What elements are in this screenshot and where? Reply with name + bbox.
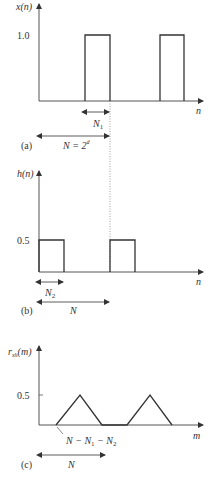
n-equals-2d-label: N = 2d	[62, 139, 90, 151]
annotation-leader	[57, 427, 63, 434]
pulse-2	[160, 35, 184, 101]
panel-label: (a)	[21, 140, 32, 152]
y-tick-label: 1.0	[17, 30, 30, 41]
x-axis-label: n	[196, 105, 201, 116]
n1-label: N1	[92, 118, 104, 131]
panel-label: (c)	[21, 459, 32, 471]
x-axis-label: m	[193, 430, 200, 441]
pulse-2	[110, 240, 135, 272]
n2-label: N2	[44, 287, 56, 300]
panel-c: rxh(m) m 0.5 N − N1 − N2 (c) N	[8, 346, 203, 471]
panel-a: x(n) n 1.0 N1 (a) N = 2d	[15, 1, 203, 272]
y-tick-label: 0.5	[17, 390, 30, 401]
x-axis-label: n	[196, 276, 201, 287]
panel-label: (b)	[21, 305, 33, 317]
y-tick-label: 0.5	[17, 235, 30, 246]
offset-annotation: N − N1 − N2	[65, 435, 117, 448]
y-axis-label: rxh(m)	[8, 346, 32, 358]
n-label: N	[67, 459, 76, 470]
y-axis-label: x(n)	[15, 1, 33, 13]
correlation-diagram: x(n) n 1.0 N1 (a) N = 2d h(n) n 0.5 N2 (…	[0, 0, 208, 479]
n-label: N	[69, 305, 78, 316]
y-axis-label: h(n)	[17, 168, 34, 180]
pulse-1	[85, 35, 110, 101]
correlation-curve	[56, 395, 172, 425]
panel-b: h(n) n 0.5 N2 (b) N	[17, 168, 203, 317]
pulse-1	[39, 240, 64, 272]
